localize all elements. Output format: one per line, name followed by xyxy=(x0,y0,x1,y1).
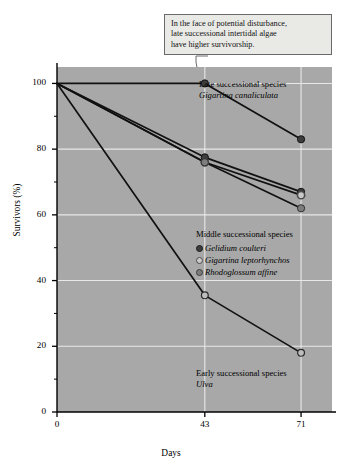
x-axis-tick-label: 71 xyxy=(286,419,316,429)
data-point-rhodoglossum-affine xyxy=(297,205,304,212)
legend-label-gigartina-leptorhynchos: Gigartina leptorhynchos xyxy=(205,255,290,265)
early-successional-species: Ulva xyxy=(196,379,213,389)
y-axis-tick-label: 60 xyxy=(16,209,46,219)
x-axis-title: Days xyxy=(0,448,342,458)
legend-marker-gigartina-leptorhynchos xyxy=(196,257,203,264)
plot-background xyxy=(57,67,332,412)
callout-leader-line xyxy=(196,56,208,62)
legend-label-gelidium-coulteri: Gelidium coulteri xyxy=(205,243,266,253)
legend-label-rhodoglossum-affine: Rhodoglossum affine xyxy=(205,267,277,277)
data-point-ulva xyxy=(201,292,208,299)
data-point-gigartina-leptorhynchos xyxy=(297,192,304,199)
y-axis-tick-label: 40 xyxy=(16,275,46,285)
x-axis-tick-label: 0 xyxy=(42,419,72,429)
y-axis-tick-label: 0 xyxy=(16,406,46,416)
early-successional-heading: Early successional species xyxy=(196,368,287,378)
y-axis-tick-label: 20 xyxy=(16,340,46,350)
late-successional-species: Gigartina canaliculata xyxy=(199,90,278,100)
data-point-gigartina-canaliculata xyxy=(297,136,304,143)
middle-successional-heading: Middle successional species xyxy=(196,229,293,239)
legend-marker-rhodoglossum-affine xyxy=(196,269,203,276)
data-point-rhodoglossum-affine xyxy=(201,159,208,166)
y-axis-tick-label: 100 xyxy=(16,77,46,87)
data-point-ulva xyxy=(298,349,305,356)
chart-figure: In the face of potential disturbance, la… xyxy=(0,0,342,474)
late-successional-heading: Late successional species xyxy=(199,79,286,89)
legend-marker-gelidium-coulteri xyxy=(196,245,203,252)
y-axis-tick-label: 80 xyxy=(16,143,46,153)
x-axis-tick-label: 43 xyxy=(190,419,220,429)
